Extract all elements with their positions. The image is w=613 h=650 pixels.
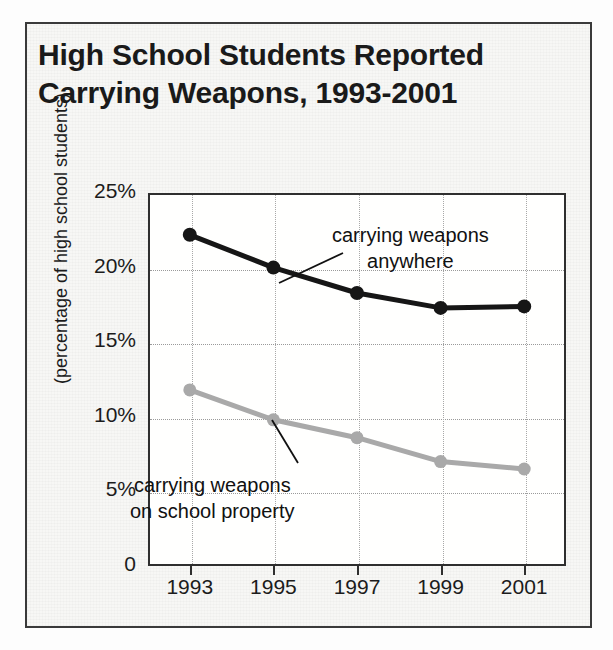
x-axis-tick-mark [190,566,192,575]
x-axis-tick-mark [357,566,359,575]
x-gridline [526,195,527,564]
series-annotation-school: carrying weaponson school property [130,472,295,524]
series-annotation-anywhere: carrying weaponsanywhere [332,222,489,274]
y-axis-tick-label: 20% [60,254,136,278]
figure-canvas: High School Students Reported Carrying W… [0,0,613,650]
y-gridline [150,344,564,345]
x-axis-tick-mark [273,566,275,575]
x-axis-tick-label: 1999 [396,575,486,599]
y-axis-tick-label: 25% [60,179,136,203]
x-axis-tick-mark [524,566,526,575]
x-axis-tick-label: 1993 [145,575,235,599]
x-axis-tick-mark [441,566,443,575]
annotation-line: on school property [130,498,295,524]
x-axis-tick-label: 1997 [312,575,402,599]
x-axis-tick-label: 1995 [228,575,318,599]
annotation-line: carrying weapons [130,472,295,498]
annotation-line: carrying weapons [332,222,489,248]
y-axis-tick-label: 15% [60,328,136,352]
line-chart: (percentage of high school students) 05%… [0,0,613,650]
y-axis-tick-label: 10% [60,403,136,427]
y-axis-label: (percentage of high school students) [51,74,72,404]
x-axis-tick-label: 2001 [479,575,569,599]
y-gridline [150,419,564,420]
y-axis-tick-label: 5% [60,477,136,501]
annotation-line: anywhere [332,248,489,274]
y-axis-tick-label: 0 [60,552,136,576]
